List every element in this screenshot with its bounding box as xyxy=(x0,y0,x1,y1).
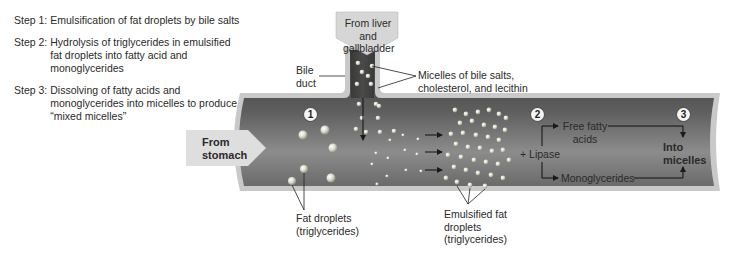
bile-duct-label: Bile duct xyxy=(296,64,320,89)
step-marker-1: 1 xyxy=(304,108,317,121)
step-marker-3: 3 xyxy=(677,108,690,121)
from-stomach-label: From stomach xyxy=(202,136,252,161)
monoglycerides-label: Monoglycerides xyxy=(561,172,635,185)
fat-droplets-label: Fat droplets (triglycerides) xyxy=(296,212,376,237)
emulsified-droplets-label: Emulsified fat droplets (triglycerides) xyxy=(444,208,526,246)
free-fatty-acids-label: Free fatty acids xyxy=(562,120,608,145)
from-liver-label: From liver and gallbladder xyxy=(343,17,393,55)
micelles-label: Micelles of bile salts, cholesterol, and… xyxy=(418,69,558,94)
lipase-label: + Lipase xyxy=(520,148,560,161)
into-micelles-label: Into micelles xyxy=(663,141,707,166)
step-marker-2: 2 xyxy=(531,108,544,121)
